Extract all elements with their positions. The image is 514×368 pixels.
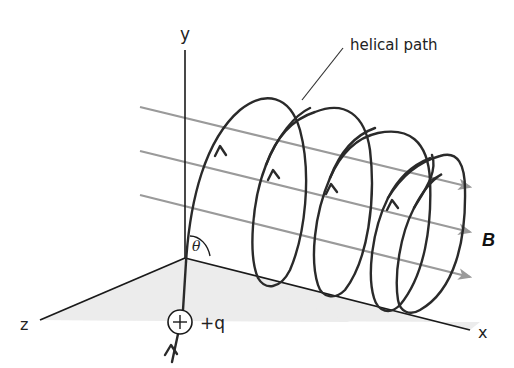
x-axis-label: x [478, 323, 487, 342]
diagram-canvas: θ +q y z x B helical path [0, 0, 514, 368]
helix-loop-3 [330, 132, 430, 311]
helical-path-label: helical path [350, 36, 438, 54]
y-axis-label: y [180, 24, 190, 44]
theta-label: θ [192, 238, 201, 254]
arrowhead-4 [387, 200, 398, 210]
helical-path-leader [302, 48, 343, 100]
field-label: B [482, 230, 495, 250]
charge-label: +q [200, 313, 225, 333]
charge-particle [168, 310, 192, 334]
arrowhead-2 [268, 170, 279, 180]
helix-loop-2 [266, 108, 375, 296]
z-axis-label: z [20, 315, 28, 334]
arrowhead-1 [215, 146, 226, 156]
